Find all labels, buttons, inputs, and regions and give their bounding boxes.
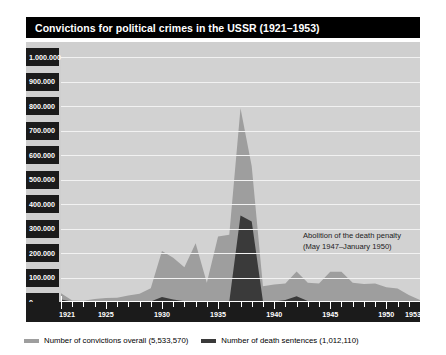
annotation-line-2: (May 1947–January 1950) [303,242,401,253]
x-tick-1929 [151,302,152,307]
x-axis-label-1950: 1950 [378,310,394,319]
x-tick-1926 [117,302,118,307]
y-axis-label-800000: 800.000 [26,97,59,115]
x-tick-1943 [308,302,309,307]
x-axis-label-1921: 1921 [59,310,75,319]
x-axis-label-1945: 1945 [322,310,338,319]
x-tick-1933 [196,302,197,307]
gridline-200000 [61,253,420,254]
x-tick-1942 [297,302,298,307]
y-axis-label-300000: 300.000 [26,220,59,238]
x-tick-1928 [140,302,141,307]
y-axis-label-500000: 500.000 [26,171,59,189]
x-tick-1940 [274,302,275,309]
x-tick-1944 [319,302,320,307]
x-axis-label-1925: 1925 [98,310,114,319]
x-tick-1930 [162,302,163,309]
x-tick-1927 [128,302,129,307]
origin-tick [61,296,62,308]
y-axis-label-200000: 200.000 [26,244,59,262]
x-axis-label-1935: 1935 [210,310,226,319]
x-tick-1937 [241,302,242,307]
chart-figure: Convictions for political crimes in the … [0,0,446,355]
x-axis-label-1953: 1953 [405,310,421,319]
x-tick-1936 [229,302,230,307]
legend-label-death-sentences: Number of death sentences (1,012,110) [221,336,358,345]
x-axis-label-1930: 1930 [154,310,170,319]
legend-item-death-sentences: Number of death sentences (1,012,110) [201,336,358,345]
x-tick-1946 [341,302,342,307]
x-tick-1923 [83,302,84,307]
chart-title-bar: Convictions for political crimes in the … [26,17,420,38]
annotation-line-1: Abolition of the death penalty [303,231,401,242]
gridline-900000 [61,82,420,83]
gridline-800000 [61,106,420,107]
y-axis-label-700000: 700.000 [26,122,59,140]
gridline-500000 [61,180,420,181]
gridline-600000 [61,155,420,156]
x-tick-1951 [398,302,399,307]
x-tick-1953 [420,302,421,309]
x-axis-label-1940: 1940 [266,310,282,319]
x-tick-1924 [95,302,96,307]
x-tick-1935 [218,302,219,309]
x-tick-1941 [285,302,286,307]
x-axis: 19211925193019351940194519501953 [26,302,420,322]
x-tick-1948 [364,302,365,307]
x-tick-1922 [72,302,73,307]
x-tick-1952 [409,302,410,307]
gridline-100000 [61,278,420,279]
x-tick-1947 [353,302,354,307]
y-axis-label-100000: 100.000 [26,269,59,287]
y-axis-label-600000: 600.000 [26,146,59,164]
x-tick-1949 [375,302,376,307]
y-axis-label-900000: 900.000 [26,73,59,91]
legend-item-convictions-overall: Number of convictions overall (5,533,570… [24,336,188,345]
x-tick-1932 [184,302,185,307]
gridline-300000 [61,229,420,230]
plot-area [61,57,420,302]
legend-label-convictions-overall: Number of convictions overall (5,533,570… [44,336,188,345]
x-tick-1950 [386,302,387,309]
x-tick-1939 [263,302,264,307]
gridline-700000 [61,131,420,132]
page-title: Convictions for political crimes in the … [26,22,320,34]
x-tick-1945 [330,302,331,309]
y-axis-label-1000000: 1.000.000 [26,48,59,66]
gridline-1000000 [61,57,420,58]
chart-legend: Number of convictions overall (5,533,570… [24,336,359,345]
x-tick-1938 [252,302,253,307]
gridline-400000 [61,204,420,205]
legend-swatch-convictions-overall [24,339,39,343]
x-tick-1934 [207,302,208,307]
annotation-abolition-death-penalty: Abolition of the death penalty (May 1947… [303,231,401,252]
legend-swatch-death-sentences [201,339,216,343]
x-tick-1925 [106,302,107,309]
x-tick-1931 [173,302,174,307]
y-axis-label-400000: 400.000 [26,195,59,213]
